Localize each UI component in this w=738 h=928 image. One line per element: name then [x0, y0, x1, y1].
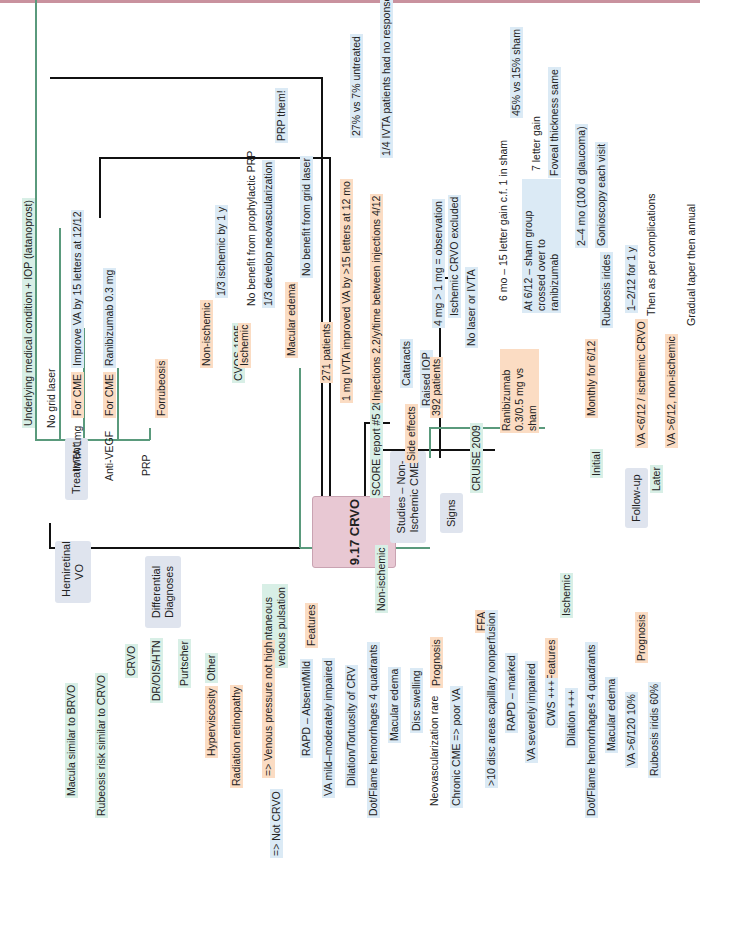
score-1mg-improved[interactable]: 1 mg IVTA improved VA by >15 letters at … [340, 179, 353, 403]
signs-is-dilation[interactable]: Dilation +++ [565, 688, 578, 748]
followup-complications[interactable]: Then as per complications [645, 191, 658, 318]
cvos-ischemic[interactable]: Ischemic [238, 323, 251, 368]
differential-node[interactable]: Differential Diagnoses [145, 556, 181, 628]
signs-is-rubeosis[interactable]: Rubeosis iridis 60% [648, 682, 661, 778]
signs-ni-hemorrhages[interactable]: Dot/Flame hemorrhages 4 quadrants [367, 642, 380, 818]
treatment-antivegf-for-cme[interactable]: For CME [103, 372, 116, 418]
studies-node[interactable]: Studies – Non-Ischemic CME [390, 451, 426, 543]
signs-is-prognosis[interactable]: Prognosis [635, 612, 648, 663]
differential-crvo[interactable]: CRVO [125, 644, 138, 678]
cvos-no-benefit-prp[interactable]: No benefit from prophylactic PRP [245, 149, 258, 308]
hemiretinal-macula[interactable]: Macula similar to BRVO [65, 683, 78, 798]
score-side-effects[interactable]: Side effects [405, 404, 418, 463]
cruise-45-vs-15[interactable]: 45% vs 15% sham [510, 27, 523, 118]
cruise-7-letter[interactable]: 7 letter gain [530, 114, 543, 173]
cruise-6mo-gain[interactable]: 6 mo – 15 letter gain c.f. 1 in sham [497, 138, 510, 303]
score-no-response[interactable]: 1/4 IVTA patients had no response [380, 0, 393, 158]
signs-is-va[interactable]: VA severely impaired [525, 661, 538, 763]
treatment-underlying[interactable]: Underlying medical condition + IOP (lata… [22, 198, 35, 428]
followup-1-2-12[interactable]: 1–2/12 for 1 y [625, 245, 638, 313]
cruise-foveal[interactable]: Foveal thickness same [548, 67, 561, 178]
signs-ni-macular-edema[interactable]: Macular edema [388, 667, 401, 743]
hemiretinal-rubeosis[interactable]: Rubeosis risk similar to CRVO [95, 673, 108, 818]
score-271[interactable]: 271 patients [320, 322, 333, 383]
cruise-392[interactable]: 392 patients [430, 357, 443, 418]
cvos-neovascularization[interactable]: 1/3 develop neovascularization [262, 160, 275, 308]
treatment-ivta-for-cme[interactable]: For CME [71, 372, 84, 418]
followup-gonioscopy[interactable]: Gonioscopy each visit [595, 142, 608, 248]
treatment-forrubeosis[interactable]: Forrubeosis [155, 359, 168, 418]
cvos-no-benefit-grid[interactable]: No benefit from grid laser [300, 156, 313, 278]
signs-ni-chronic-cme[interactable]: Chronic CME => poor VA [450, 686, 463, 808]
signs-ni-features[interactable]: Features [305, 603, 318, 648]
score-4mg[interactable]: 4 mg > 1 mg = observation [432, 199, 445, 328]
cruise-ranibizumab[interactable]: Ranibizumab 0.3/0.5 mg vs sham [500, 349, 539, 433]
signs-is-rapd[interactable]: RAPD – marked [505, 653, 518, 733]
cruise-crossed-over[interactable]: At 6/12 – sham group crossed over to ran… [522, 179, 561, 313]
signs-ni-dilation[interactable]: Dilation/Tortuosity of CRV [345, 665, 358, 788]
treatment-no-grid-laser[interactable]: No grid laser [45, 366, 58, 430]
signs-is-cws[interactable]: CWS +++ [545, 678, 558, 728]
signs-is-ffa-nonperfusion[interactable]: >10 disc areas capillary nonperfusion [485, 610, 498, 788]
treatment-anti-vegf[interactable]: Anti-VEGF [103, 429, 116, 483]
cvos-macular-edema[interactable]: Macular edema [285, 282, 298, 358]
followup-monthly[interactable]: Monthly for 6/12 [585, 339, 598, 418]
followup-rubeosis-irides[interactable]: Rubeosis irides [600, 252, 613, 328]
score-injections[interactable]: Injections 2.2/y/time between injections… [370, 194, 383, 403]
treatment-prp[interactable]: PRP [140, 452, 153, 478]
cvos-non-ischemic[interactable]: Non-ischemic [200, 300, 213, 368]
root-label: 9.17 CRVO [347, 499, 362, 565]
treatment-ranibizumab[interactable]: Ranibizumab 0.3 mg [103, 268, 116, 368]
followup-node[interactable]: Follow-up [625, 468, 648, 528]
signs-ni-va[interactable]: VA mild–moderately impaired [322, 658, 335, 798]
signs-ni-rapd[interactable]: RAPD – Absent/Mild [300, 659, 313, 758]
treatment-ivta[interactable]: IVTA 1mg [71, 424, 84, 473]
differential-radiation[interactable]: Radiation retinopathy [230, 685, 243, 788]
treatment-ivta-improve-va[interactable]: Improve VA by 15 letters at 12/12 [71, 210, 84, 368]
mind-map: 9.17 CRVO Treatment Underlying medical c… [0, 0, 738, 928]
signs-is-macular-edema[interactable]: Macular edema [605, 677, 618, 753]
differential-hyperviscosity[interactable]: Hyperviscosity [205, 686, 218, 758]
signs-ischemic[interactable]: Ischemic [560, 573, 573, 618]
signs-venous-pressure[interactable]: => Venous pressure not high [262, 640, 275, 778]
signs-ni-disc-swelling[interactable]: Disc swelling [410, 668, 423, 733]
followup-2-4mo[interactable]: 2–4 mo (100 d glaucoma) [575, 124, 588, 248]
signs-ni-prognosis[interactable]: Prognosis [430, 637, 443, 688]
signs-is-va-6-120[interactable]: VA >6/120 10% [625, 692, 638, 768]
differential-purtscher[interactable]: Purtscher [178, 639, 191, 688]
followup-gradual-taper[interactable]: Gradual taper then annual [685, 202, 698, 328]
signs-non-ischemic[interactable]: Non-ischemic [375, 545, 388, 613]
score-27-vs-7[interactable]: 27% vs 7% untreated [350, 34, 363, 138]
signs-ni-neovascularization[interactable]: Neovascularization rare [428, 694, 441, 808]
followup-va-gt-6-12[interactable]: VA >6/12, non-ischemic [665, 334, 678, 448]
score-cataracts[interactable]: Cataracts [400, 339, 413, 388]
cruise-ischemic-excluded[interactable]: Ischemic CRVO excluded [448, 195, 461, 318]
followup-initial[interactable]: Initial [590, 449, 603, 478]
hemiretinal-node[interactable]: Hemiretinal VO [55, 541, 91, 603]
cvos-ischemic-by-1y[interactable]: 1/3 ischemic by 1 y [215, 205, 228, 298]
followup-later[interactable]: Later [650, 465, 663, 493]
followup-va-lt-6-12[interactable]: VA <6/12 / ischemic CRVO [635, 319, 648, 448]
signs-node[interactable]: Signs [440, 493, 463, 533]
signs-is-hemorrhages[interactable]: Dot/Flame hemorrhages 4 quadrants [585, 642, 598, 818]
cruise-2009[interactable]: CRUISE 2009 [470, 423, 483, 493]
signs-not-crvo[interactable]: => Not CRVO [270, 789, 283, 858]
cruise-no-laser[interactable]: No laser or IVTA [465, 267, 478, 348]
differential-dr-ois-htn[interactable]: DR/OIS/HTN [150, 638, 163, 703]
signs-is-features[interactable]: Features [545, 638, 558, 683]
differential-other[interactable]: Other [205, 653, 218, 683]
cvos-prp-them[interactable]: PRP them! [275, 88, 288, 143]
